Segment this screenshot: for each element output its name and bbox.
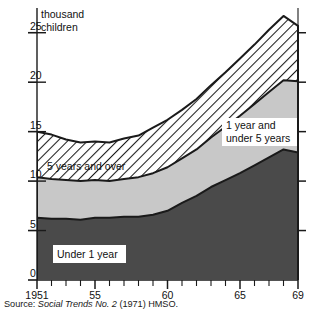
source-prefix: Source: bbox=[4, 299, 38, 309]
legend-under-one-year-label: Under 1 year bbox=[57, 248, 118, 260]
y-axis-title-line1: thousand bbox=[41, 8, 84, 20]
x-tick-label: 69 bbox=[292, 289, 304, 301]
stacked-area-chart: 0510152025 195155606569 thousand childre… bbox=[0, 0, 317, 317]
source-note: Source: Social Trends No. 2 (1971) HMSO. bbox=[4, 299, 178, 309]
y-tick-label: 15 bbox=[30, 119, 42, 131]
y-tick-label: 0 bbox=[30, 267, 36, 279]
legend-one-to-five-label-line1: 1 year and bbox=[226, 119, 276, 131]
x-tick-label: 65 bbox=[234, 289, 246, 301]
legend-one-to-five-label-line2: under 5 years bbox=[226, 132, 290, 144]
y-tick-label: 5 bbox=[30, 218, 36, 230]
legend-under-one-year: Under 1 year bbox=[53, 245, 126, 263]
y-axis-title-line2: children bbox=[41, 21, 78, 33]
legend-one-to-five: 1 year and under 5 years bbox=[222, 118, 297, 146]
chart-figure: 0510152025 195155606569 thousand childre… bbox=[0, 0, 317, 317]
source-title: Social Trends No. 2 bbox=[38, 299, 117, 309]
y-tick-label: 10 bbox=[30, 168, 42, 180]
y-tick-label: 20 bbox=[30, 69, 42, 81]
legend-five-and-over: 5 years and over bbox=[47, 160, 126, 172]
legend-five-and-over-label: 5 years and over bbox=[47, 160, 126, 172]
source-suffix: (1971) HMSO. bbox=[117, 299, 178, 309]
